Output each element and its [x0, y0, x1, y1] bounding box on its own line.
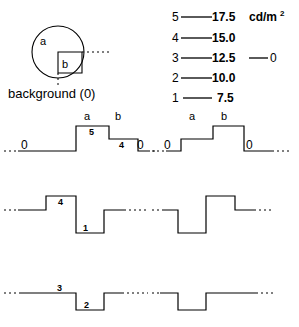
legend-level-4: 4 — [172, 31, 179, 45]
figure-root: a b background (0) 5 17.5 cd/m 2 4 15.0 … — [0, 0, 299, 327]
waveform-left-zero-row1-right: 0 — [164, 138, 171, 152]
waveform-left-zero-row1-left: 0 — [21, 138, 28, 152]
waveform-row2-right — [152, 196, 274, 233]
waveform-trace-row2-right — [162, 196, 254, 233]
waveform-level-a-row2-left: 4 — [58, 197, 63, 207]
waveform-row3-left: 3 2 — [4, 283, 148, 310]
legend-value-3: 12.5 — [212, 51, 236, 65]
legend-value-4: 15.0 — [212, 31, 236, 45]
stimulus-diagram: a b background (0) — [8, 26, 110, 101]
legend-level-3: 3 — [172, 51, 179, 65]
legend: 5 17.5 cd/m 2 4 15.0 3 12.5 0 2 10.0 1 — [172, 9, 285, 105]
waveform-right-zero-row1-left: 0 — [137, 138, 144, 152]
waveform-a-label-row1-left: a — [84, 110, 91, 122]
waveform-b-label-row1-right: b — [221, 110, 227, 122]
waveform-level-b-row2-left: 1 — [83, 223, 88, 233]
waveform-row3-right — [152, 293, 276, 310]
legend-value-5: 17.5 — [212, 10, 236, 24]
waveform-level-b-row3-left: 2 — [84, 300, 89, 310]
background-caption: background (0) — [8, 86, 95, 101]
waveform-trace-row3-left — [20, 293, 122, 310]
legend-level-1: 1 — [172, 91, 179, 105]
waveform-row2-left: 4 1 — [4, 196, 148, 233]
legend-value-2: 10.0 — [212, 71, 236, 85]
waveform-trace-row1-left — [18, 126, 148, 151]
legend-level-2: 2 — [172, 71, 179, 85]
region-a-label: a — [40, 35, 47, 47]
legend-row-2: 2 10.0 — [172, 71, 236, 85]
legend-row-5: 5 17.5 cd/m 2 — [172, 9, 285, 24]
waveform-row1-right: a b 0 0 — [152, 110, 292, 152]
waveform-trace-row2-left — [18, 196, 124, 233]
waveform-row1-left: a b 0 0 5 4 — [4, 110, 156, 152]
legend-unit-exponent: 2 — [280, 9, 285, 18]
waveform-trace-row1-right — [166, 126, 272, 151]
legend-value-1: 7.5 — [217, 91, 234, 105]
waveform-right-zero-row1-right: 0 — [246, 138, 253, 152]
figure-svg: a b background (0) 5 17.5 cd/m 2 4 15.0 … — [0, 0, 299, 327]
waveform-trace-row3-right — [160, 293, 256, 310]
legend-level-5: 5 — [172, 10, 179, 24]
waveform-level-a-row3-left: 3 — [57, 283, 62, 293]
legend-zero-label: 0 — [270, 51, 277, 65]
legend-row-3: 3 12.5 0 — [172, 51, 277, 65]
waveform-level-a-row1-left: 5 — [89, 127, 94, 137]
legend-row-1: 1 7.5 — [172, 91, 234, 105]
legend-row-4: 4 15.0 — [172, 31, 236, 45]
waveform-level-b-row1-left: 4 — [119, 140, 124, 150]
region-b-label: b — [62, 58, 68, 70]
legend-unit: cd/m — [249, 10, 277, 24]
waveform-a-label-row1-right: a — [189, 110, 196, 122]
waveform-b-label-row1-left: b — [115, 110, 121, 122]
